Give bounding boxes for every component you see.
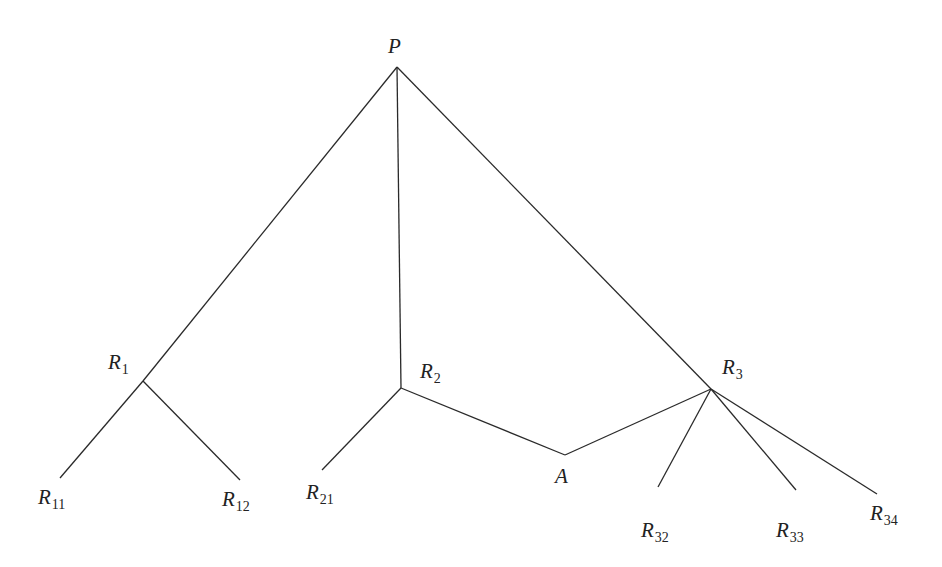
node-label-R33: R33 xyxy=(776,520,804,545)
edge-R1-R11 xyxy=(60,381,143,478)
edge-R3-R33 xyxy=(711,389,796,490)
node-label-R11: R11 xyxy=(38,487,65,512)
node-label-P: P xyxy=(388,36,402,61)
edge-P-R2 xyxy=(397,67,401,388)
node-label-R2: R2 xyxy=(420,361,441,386)
edge-R1-R12 xyxy=(143,381,240,480)
node-label-R34: R34 xyxy=(870,503,898,528)
edges-group xyxy=(60,67,877,494)
edge-R2-R21 xyxy=(322,388,401,470)
node-label-R3: R3 xyxy=(722,357,743,382)
edge-R3-R34 xyxy=(711,389,877,494)
tree-diagram xyxy=(0,0,942,567)
edge-P-R3 xyxy=(397,67,711,389)
node-label-R21: R21 xyxy=(306,482,334,507)
node-label-A: A xyxy=(555,466,569,491)
node-label-R1: R1 xyxy=(108,352,129,377)
edge-R2-A xyxy=(401,388,565,455)
node-label-R32: R32 xyxy=(641,520,669,545)
edge-P-R1 xyxy=(143,67,397,381)
edge-R3-R32 xyxy=(658,389,711,487)
edge-A-R3 xyxy=(565,389,711,455)
node-label-R12: R12 xyxy=(222,489,250,514)
